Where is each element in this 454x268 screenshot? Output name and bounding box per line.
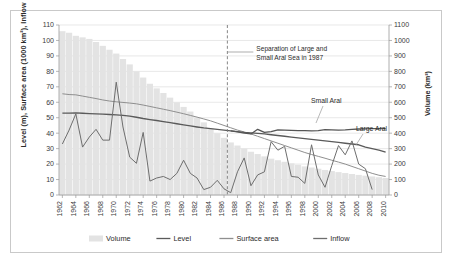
- chart-plot: Separation of Large andSmall Aral Sea in…: [11, 11, 443, 254]
- volume-bar: [174, 102, 180, 195]
- volume-bar: [308, 167, 314, 195]
- x-tick-label: 1978: [164, 201, 171, 217]
- volume-bar: [194, 118, 200, 195]
- y-tick-label-left: 30: [46, 145, 54, 152]
- volume-bar: [268, 159, 274, 195]
- legend-label-volume: Volume: [106, 234, 131, 243]
- x-tick-label: 1998: [299, 201, 306, 217]
- y-tick-label-right: 900: [394, 52, 406, 59]
- annotation-text-line2: Small Aral Sea in 1987: [256, 54, 323, 61]
- legend-swatch-volume: [89, 236, 103, 242]
- y-tick-label-left: 90: [46, 52, 54, 59]
- y-tick-label-right: 500: [394, 114, 406, 121]
- large-aral-label: Large Aral: [356, 125, 387, 133]
- y-tick-label-right: 300: [394, 145, 406, 152]
- chart-container: Level (m), Surface area (1000 km²), Infl…: [10, 10, 442, 253]
- x-tick-label: 1962: [56, 201, 63, 217]
- y-tick-label-right: 400: [394, 130, 406, 137]
- volume-bar: [93, 42, 99, 195]
- y-tick-label-left: 20: [46, 160, 54, 167]
- volume-bar: [376, 177, 382, 195]
- annotation-text-line1: Separation of Large and: [256, 45, 327, 53]
- volume-bar: [86, 39, 92, 195]
- volume-bar: [79, 37, 85, 195]
- y-tick-label-left: 50: [46, 114, 54, 121]
- volume-bar: [383, 178, 389, 195]
- x-tick-label: 1974: [137, 201, 144, 217]
- volume-bar: [369, 176, 375, 195]
- volume-bar: [342, 173, 348, 195]
- small-aral-label: Small Aral: [311, 97, 342, 104]
- x-tick-label: 1996: [285, 201, 292, 217]
- x-tick-label: 1990: [245, 201, 252, 217]
- volume-bar: [295, 165, 301, 195]
- y-tick-label-left: 10: [46, 176, 54, 183]
- volume-bar: [140, 78, 146, 195]
- x-tick-label: 2006: [353, 201, 360, 217]
- volume-bar: [275, 160, 281, 195]
- x-tick-label: 1964: [70, 201, 77, 217]
- x-tick-label: 1966: [83, 201, 90, 217]
- y-tick-label-left: 100: [42, 37, 54, 44]
- x-tick-label: 2004: [339, 201, 346, 217]
- x-tick-label: 1988: [231, 201, 238, 217]
- x-tick-label: 1968: [97, 201, 104, 217]
- legend-label-surface-area: Surface area: [236, 234, 279, 243]
- plot-wrapper: Level (m), Surface area (1000 km²), Infl…: [11, 11, 443, 254]
- volume-bar: [362, 176, 368, 195]
- volume-bar: [282, 162, 288, 195]
- volume-bar: [356, 175, 362, 195]
- y-tick-label-right: 200: [394, 160, 406, 167]
- x-tick-label: 1992: [258, 201, 265, 217]
- volume-bar: [187, 112, 193, 195]
- volume-bar: [113, 54, 119, 195]
- volume-bar: [241, 149, 247, 195]
- y-tick-label-left: 40: [46, 130, 54, 137]
- volume-bar: [214, 133, 220, 195]
- y-tick-label-right: 100: [394, 176, 406, 183]
- y-tick-label-left: 80: [46, 68, 54, 75]
- y-tick-label-left: 0: [50, 191, 54, 198]
- volume-bar: [100, 46, 106, 195]
- volume-bar: [248, 152, 254, 195]
- volume-bar: [167, 98, 173, 195]
- x-tick-label: 2010: [380, 201, 387, 217]
- volume-bar: [127, 64, 133, 195]
- y-tick-label-right: 600: [394, 99, 406, 106]
- x-tick-label: 1982: [191, 201, 198, 217]
- x-tick-label: 1980: [178, 201, 185, 217]
- x-tick-label: 1994: [272, 201, 279, 217]
- x-tick-label: 2008: [366, 201, 373, 217]
- volume-bar: [180, 107, 186, 195]
- x-tick-label: 1976: [151, 201, 158, 217]
- y-tick-label-right: 1100: [394, 21, 409, 28]
- volume-bar: [234, 146, 240, 195]
- x-tick-label: 1972: [124, 201, 131, 217]
- y-tick-label-left: 70: [46, 83, 54, 90]
- x-tick-label: 2000: [312, 201, 319, 217]
- y-tick-label-right: 0: [394, 191, 398, 198]
- y-tick-label-right: 1000: [394, 37, 410, 44]
- x-tick-label: 2002: [326, 201, 333, 217]
- volume-bar: [329, 171, 335, 195]
- volume-bar: [201, 122, 207, 195]
- volume-bar: [133, 71, 139, 195]
- y-tick-label-right: 700: [394, 83, 406, 90]
- volume-bar: [349, 174, 355, 195]
- y-tick-label-left: 60: [46, 99, 54, 106]
- y-tick-label-left: 110: [43, 21, 54, 28]
- x-tick-label: 1986: [218, 201, 225, 217]
- volume-bar: [335, 172, 341, 195]
- legend-label-level: Level: [173, 234, 191, 243]
- y-tick-label-right: 800: [394, 68, 406, 75]
- x-tick-label: 1970: [110, 201, 117, 217]
- legend-label-inflow: Inflow: [330, 234, 350, 243]
- volume-bar: [66, 33, 72, 195]
- x-tick-label: 1984: [205, 201, 212, 217]
